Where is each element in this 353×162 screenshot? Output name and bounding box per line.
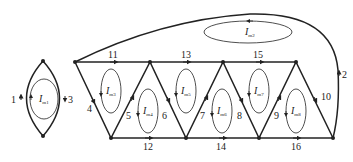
branch-label-7: 7 [200,110,205,121]
branch-label-9: 9 [274,110,279,121]
mesh-loop-m3 [101,69,121,113]
svg-text:Im4: Im4 [142,105,153,117]
mesh-loop-m6 [212,89,232,133]
svg-text:Im5: Im5 [180,85,191,97]
branch-label-10: 10 [321,91,331,102]
mesh-loop-m4 [138,89,158,133]
mesh-loop-m7 [249,69,269,113]
branch-label-8: 8 [237,110,242,121]
branch-label-1: 1 [11,94,16,105]
svg-text:Im2: Im2 [244,26,255,38]
svg-text:Im6: Im6 [216,105,227,117]
branch-label-12: 12 [143,141,153,152]
branch-label-6: 6 [162,110,167,121]
svg-text:Im8: Im8 [290,105,301,117]
branch-label-16: 16 [291,141,301,152]
main-graph [75,14,338,138]
mesh-loop-m5 [176,69,196,113]
branch-label-5: 5 [126,110,131,121]
branch-label-4: 4 [87,103,92,114]
branch-label-13: 13 [181,49,191,60]
branch-label-3: 3 [68,94,73,105]
branch-label-2: 2 [342,69,347,80]
svg-text:Im1: Im1 [38,93,49,105]
svg-text:Im7: Im7 [253,85,264,97]
branch-label-14: 14 [216,141,226,152]
circuit-diagram: 1 3 Im1 [0,0,353,162]
left-subgraph: 1 3 Im1 [11,59,73,138]
mesh-loop-m8 [286,89,306,133]
branch-3 [43,61,60,136]
branch-label-15: 15 [253,49,263,60]
svg-text:Im3: Im3 [105,85,116,97]
branch-label-11: 11 [108,49,118,60]
mesh-loop-m1 [30,79,58,119]
